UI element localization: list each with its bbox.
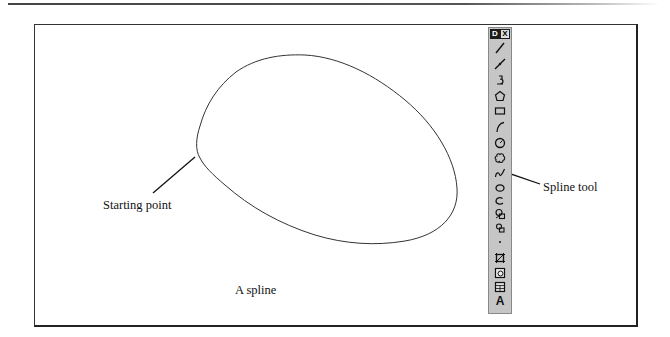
circle-tool-button[interactable] (491, 136, 509, 150)
construction-line-icon (494, 58, 506, 70)
make-block-tool-button[interactable] (491, 221, 509, 235)
insert-block-icon (494, 208, 506, 220)
polygon-icon (494, 90, 506, 102)
toolbar-title-bar[interactable]: D X (490, 29, 510, 39)
ellipse-arc-icon (494, 195, 506, 207)
arc-tool-button[interactable] (491, 120, 509, 134)
insert-block-tool-button[interactable] (491, 207, 509, 221)
spline-tool-label: Spline tool (543, 180, 598, 195)
point-tool-button[interactable] (491, 235, 509, 249)
starting-point-label: Starting point (103, 198, 171, 213)
revision-cloud-tool-button[interactable] (491, 151, 509, 165)
circle-icon (494, 137, 506, 149)
rectangle-icon (494, 105, 506, 117)
region-tool-button[interactable] (491, 266, 509, 280)
figure-caption: A spline (235, 283, 276, 298)
hatch-icon (494, 252, 506, 264)
spline-curve (197, 55, 458, 244)
polyline-tool-button[interactable] (491, 73, 509, 87)
construction-line-tool-button[interactable] (491, 57, 509, 71)
arc-icon (494, 121, 506, 133)
toolbar-title: D (492, 29, 498, 39)
hatch-tool-button[interactable] (491, 251, 509, 265)
multiline-text-tool-button[interactable]: A (491, 294, 509, 308)
starting-point-leader (153, 157, 195, 193)
table-icon (494, 281, 506, 293)
ellipse-arc-tool-button[interactable] (491, 194, 509, 208)
region-icon (494, 267, 506, 279)
polygon-tool-button[interactable] (491, 89, 509, 103)
ellipse-tool-button[interactable] (491, 181, 509, 195)
make-block-icon (494, 222, 506, 234)
line-icon (494, 42, 506, 54)
ellipse-icon (494, 182, 506, 194)
table-tool-button[interactable] (491, 280, 509, 294)
multiline-text-icon: A (496, 294, 505, 308)
revision-cloud-icon (494, 152, 506, 164)
spline-icon (494, 167, 506, 179)
drawing-canvas (0, 0, 670, 337)
polyline-icon (494, 74, 506, 86)
close-icon[interactable]: X (501, 30, 509, 38)
point-icon (494, 236, 506, 248)
spline-tool-button[interactable] (491, 166, 509, 180)
rectangle-tool-button[interactable] (491, 104, 509, 118)
line-tool-button[interactable] (491, 41, 509, 55)
draw-toolbar[interactable]: D X (488, 27, 512, 314)
